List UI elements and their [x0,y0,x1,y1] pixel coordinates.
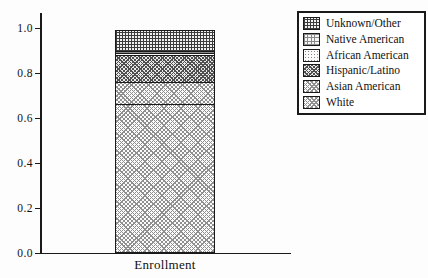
legend-label: Native American [326,33,404,46]
y-tick [35,73,40,74]
legend-item-hispanic-latino: Hispanic/Latino [303,63,420,78]
y-tick-label: 0.4 [7,158,33,169]
y-tick [35,28,40,29]
legend-label: Asian American [326,80,400,93]
bar-segment-hispanic-latino [116,56,214,83]
legend-label: Hispanic/Latino [326,64,400,77]
bar-segment-unknown-other [116,31,214,52]
y-tick [35,253,40,254]
y-tick-label: 1.0 [7,23,33,34]
y-axis-line [40,13,42,254]
legend: Unknown/OtherNative AmericanAfrican Amer… [297,11,426,115]
x-axis-label: Enrollment [115,257,215,273]
legend-item-native-american: Native American [303,32,420,47]
stacked-bar-enrollment [115,30,215,253]
bar-segment-asian-american [116,83,214,105]
legend-item-asian-american: Asian American [303,79,420,94]
y-tick [35,208,40,209]
legend-swatch-diag-dark-icon [303,64,320,77]
legend-item-white: White [303,95,420,110]
y-tick-label: 0.8 [7,68,33,79]
legend-label: Unknown/Other [326,17,401,30]
legend-swatch-diag-light-icon [303,96,320,109]
legend-label: African American [326,49,409,62]
legend-item-unknown-other: Unknown/Other [303,16,420,31]
legend-swatch-diag-light-icon [303,80,320,93]
y-tick [35,163,40,164]
legend-swatch-grid-dark-icon [303,17,320,30]
legend-swatch-grid-light-icon [303,33,320,46]
y-tick [35,118,40,119]
figure: 0.00.20.40.60.81.0 Enrollment Unknown/Ot… [0,0,428,278]
legend-swatch-dots-icon [303,49,320,62]
y-tick-label: 0.6 [7,113,33,124]
bar-segment-white [116,105,214,252]
legend-label: White [326,96,354,109]
legend-item-african-american: African American [303,48,420,63]
y-tick-label: 0.2 [7,203,33,214]
y-tick-label: 0.0 [7,248,33,259]
